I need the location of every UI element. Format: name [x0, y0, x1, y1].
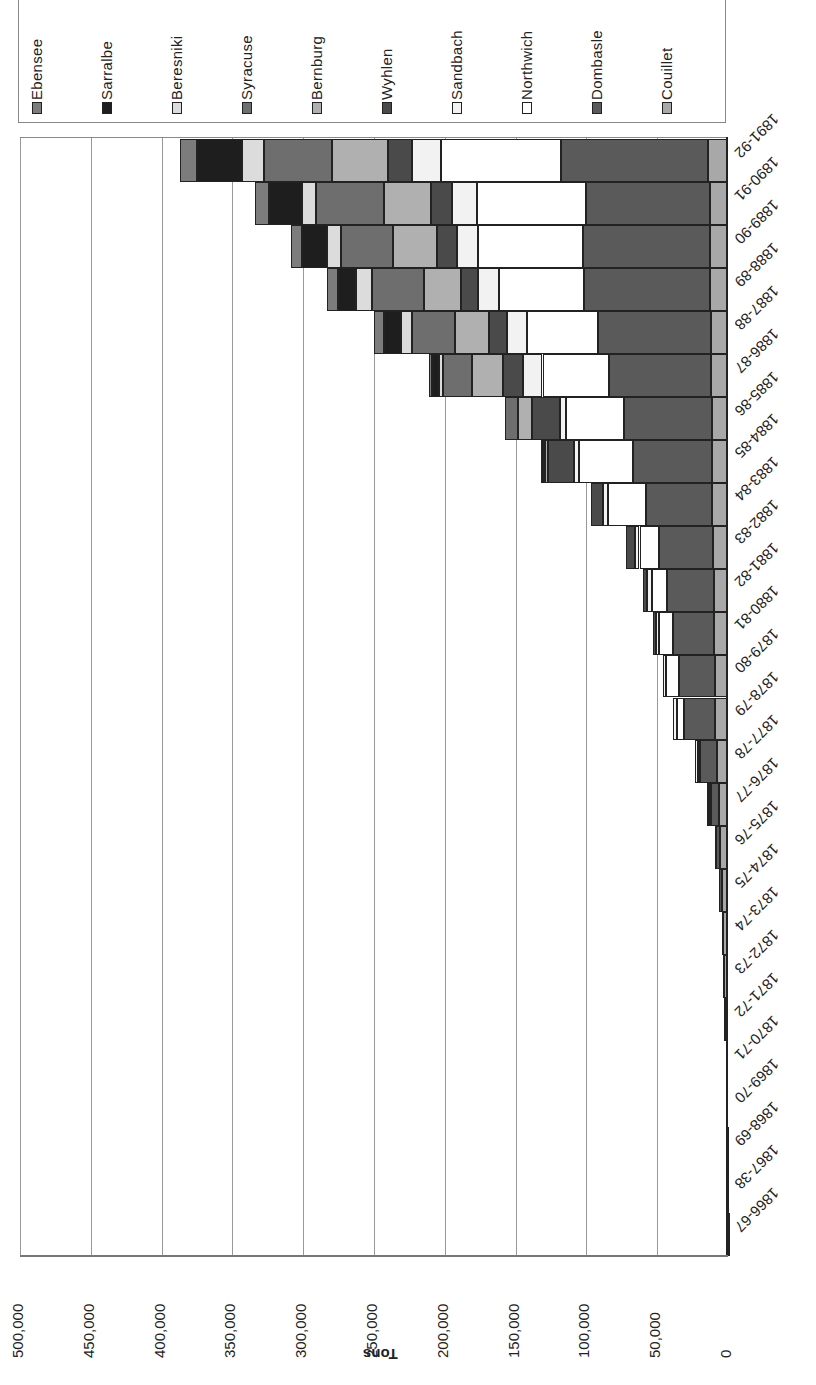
segment-northwich	[499, 268, 584, 311]
segment-wyhlen	[626, 526, 634, 569]
segment-sarralbe	[197, 139, 242, 182]
legend-label: Beresniki	[168, 36, 185, 100]
legend-item-dombasle: Dombasle	[584, 8, 614, 118]
value-tick-label: 400,000	[151, 1268, 173, 1358]
legend-swatch	[172, 102, 182, 114]
bar-1890-91	[21, 182, 729, 225]
segment-ebensee	[541, 440, 543, 483]
segment-syracuse	[264, 139, 332, 182]
bar-1878-79	[21, 698, 729, 741]
category-label: 1887-88	[736, 321, 816, 351]
segment-sandbach	[507, 311, 527, 354]
segment-dombasle	[679, 655, 714, 698]
bar-1891-92	[21, 139, 729, 182]
legend-label: Sarralbe	[98, 41, 115, 100]
legend-swatch	[102, 102, 112, 114]
category-label: 1883-84	[736, 492, 816, 522]
segment-beresniki	[327, 225, 341, 268]
segment-dombasle	[633, 440, 712, 483]
bar-1889-90	[21, 225, 729, 268]
category-label: 1880-81	[736, 621, 816, 651]
bar-1867-38	[21, 1170, 729, 1213]
segment-syracuse	[372, 268, 424, 311]
segment-northwich	[543, 354, 610, 397]
segment-ebensee	[327, 268, 338, 311]
segment-beresniki	[302, 182, 316, 225]
category-label: 1888-89	[736, 278, 816, 308]
segment-dombasle	[609, 354, 711, 397]
segment-bernburg	[455, 311, 489, 354]
legend-label: Bernburg	[308, 36, 325, 100]
value-tick-label: 350,000	[221, 1268, 243, 1358]
category-label: 1876-77	[736, 793, 816, 823]
legend-label: Northwich	[518, 31, 535, 100]
segment-dombasle	[673, 612, 714, 655]
segment-northwich	[640, 526, 660, 569]
segment-sandbach	[707, 783, 709, 826]
segment-northwich	[527, 311, 598, 354]
category-label: 1875-76	[736, 836, 816, 866]
segment-dombasle	[586, 182, 709, 225]
segment-dombasle	[700, 740, 717, 783]
legend-swatch	[382, 102, 392, 114]
segment-wyhlen	[503, 354, 523, 397]
segment-sandbach	[523, 354, 543, 397]
segment-northwich	[478, 225, 583, 268]
bar-1888-89	[21, 268, 729, 311]
segment-sarralbe	[302, 225, 326, 268]
segment-wyhlen	[532, 397, 560, 440]
segment-sandbach	[478, 268, 499, 311]
legend-item-beresniki: Beresniki	[164, 8, 194, 118]
segment-sarralbe	[432, 354, 439, 397]
segment-sarralbe	[338, 268, 356, 311]
segment-wyhlen	[388, 139, 412, 182]
segment-wyhlen	[437, 225, 457, 268]
segment-dombasle	[684, 698, 715, 741]
legend-swatch	[522, 102, 532, 114]
value-tick-label: 100,000	[575, 1268, 597, 1358]
category-label: 1877-78	[736, 750, 816, 780]
bar-1873-74	[21, 912, 729, 955]
legend-swatch	[32, 102, 42, 114]
legend-label: Dombasle	[588, 30, 605, 100]
segment-sandbach	[457, 225, 478, 268]
legend-label: Sandbach	[448, 30, 465, 100]
segment-beresniki	[242, 139, 263, 182]
category-label: 1890-91	[736, 192, 816, 222]
segment-sandbach	[695, 740, 697, 783]
legend-item-wyhlen: Wyhlen	[374, 8, 404, 118]
value-tick-label: 450,000	[80, 1268, 102, 1358]
segment-dombasle	[646, 483, 713, 526]
segment-bernburg	[384, 182, 431, 225]
legend-label: Syracuse	[238, 35, 255, 100]
plot-area	[20, 137, 728, 1255]
segment-wyhlen	[461, 268, 478, 311]
segment-syracuse	[341, 225, 393, 268]
bar-1883-84	[21, 483, 729, 526]
bar-1877-78	[21, 740, 729, 783]
segment-sandbach	[560, 397, 566, 440]
segment-dombasle	[584, 268, 710, 311]
value-tick-label: 50,000	[646, 1268, 668, 1358]
segment-wyhlen	[431, 182, 452, 225]
legend-item-sarralbe: Sarralbe	[94, 8, 124, 118]
bar-1868-69	[21, 1127, 729, 1170]
segment-sandbach	[647, 569, 651, 612]
segment-ebensee	[180, 139, 197, 182]
segment-sandbach	[715, 826, 717, 869]
category-label: 1869-70	[736, 1094, 816, 1124]
category-label: 1881-82	[736, 578, 816, 608]
segment-couillet	[708, 139, 728, 182]
segment-sandbach	[412, 139, 440, 182]
legend-item-bernburg: Bernburg	[304, 8, 334, 118]
segment-dombasle	[583, 225, 710, 268]
category-label: 1872-73	[736, 965, 816, 995]
segment-dombasle	[624, 397, 712, 440]
segment-wyhlen	[643, 569, 647, 612]
segment-beresniki	[356, 268, 372, 311]
category-label: 1878-79	[736, 707, 816, 737]
segment-syracuse	[412, 311, 454, 354]
category-label: 1870-71	[736, 1051, 816, 1081]
segment-wyhlen	[548, 440, 573, 483]
category-label: 1866-67	[736, 1223, 816, 1253]
